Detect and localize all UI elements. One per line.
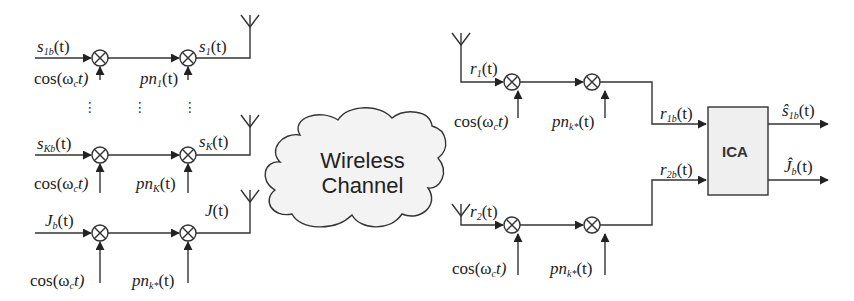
tx-code-label-k: pnK(t)	[136, 175, 176, 194]
rx-input-label-2: r2(t)	[470, 203, 498, 222]
wireless-channel-label: Wireless Channel	[300, 148, 425, 199]
tx-code-label-1: pn1(t)	[140, 70, 178, 89]
antenna-icon	[452, 33, 470, 45]
mixer-icon	[92, 50, 108, 66]
mixer-icon	[584, 74, 600, 90]
mixer-icon	[504, 74, 520, 90]
tx-carrier-label-jammer: cos(ωct)	[30, 272, 84, 291]
ellipsis: ⋮	[133, 105, 147, 110]
mixer-icon	[584, 217, 600, 233]
tx-code-label-jammer: pnk*(t)	[132, 272, 175, 291]
tx-output-label-1: s1(t)	[199, 38, 227, 57]
mixer-icon	[180, 225, 196, 241]
antenna-icon	[241, 15, 259, 27]
mixer-icon	[180, 147, 196, 163]
rx-code-label-1: pnk*(t)	[552, 113, 595, 132]
mixer-icon	[92, 147, 108, 163]
mixer-icon	[504, 217, 520, 233]
rx-carrier-label-2: cos(ωct)	[452, 260, 506, 279]
rx-carrier-label-1: cos(ωct)	[454, 113, 508, 132]
rx-code-label-2: pnk*(t)	[550, 260, 593, 279]
tx-carrier-label-k: cos(ωct)	[34, 175, 88, 194]
tx-carrier-label-1: cos(ωct)	[34, 70, 88, 89]
diagram-canvas: s1b(t) s1(t) cos(ωct) pn1(t) ⋮ ⋮ ⋮ sKb(t…	[0, 0, 854, 301]
rx-baseband-label-2: r2b(t)	[660, 161, 693, 180]
tx-output-label-k: sK(t)	[199, 133, 228, 152]
tx-input-label-k: sKb(t)	[37, 135, 71, 154]
antenna-icon	[241, 115, 259, 127]
mixer-icon	[180, 50, 196, 66]
tx-input-label-jammer: Jb(t)	[45, 212, 74, 231]
tx-input-label-1: s1b(t)	[37, 38, 70, 57]
ellipsis: ⋮	[183, 105, 197, 110]
antenna-icon	[452, 204, 470, 216]
ellipsis: ⋮	[83, 105, 97, 110]
rx-input-label-1: r1(t)	[470, 60, 498, 79]
ica-output-label-signal: ŝ1b(t)	[782, 102, 815, 121]
ica-label: ICA	[722, 143, 748, 160]
mixer-icon	[92, 225, 108, 241]
antenna-icon	[241, 190, 259, 202]
ica-output-label-jammer: Ĵb(t)	[784, 158, 813, 177]
rx-baseband-label-1: r1b(t)	[660, 105, 693, 124]
tx-output-label-jammer: J(t)	[205, 202, 229, 221]
